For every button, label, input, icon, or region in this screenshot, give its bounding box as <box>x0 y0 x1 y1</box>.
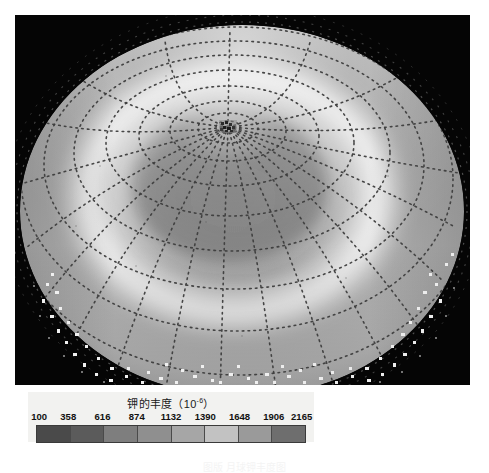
legend-tick-label-100: 100 <box>31 411 47 423</box>
legend-tick-label-1906: 1906 <box>263 411 284 423</box>
legend-tick-label-358: 358 <box>60 411 76 423</box>
legend-tick-label-616: 616 <box>95 411 111 423</box>
legend-tick-label-1390: 1390 <box>195 411 216 423</box>
legend-segment-5 <box>205 426 239 442</box>
legend-title-main: 钾的丰度（10 <box>127 398 196 410</box>
figure-root: 钾的丰度（10-6） 10035861687411321390164819062… <box>0 0 489 473</box>
legend-segment-7 <box>272 426 305 442</box>
plot-canvas <box>15 15 470 385</box>
legend-segment-6 <box>239 426 273 442</box>
legend-title: 钾的丰度（10-6） <box>28 394 314 411</box>
legend-segment-4 <box>172 426 206 442</box>
legend-segment-0 <box>37 426 71 442</box>
legend-panel: 钾的丰度（10-6） 10035861687411321390164819062… <box>28 392 314 442</box>
legend-segment-2 <box>104 426 138 442</box>
lunar-abundance-map <box>15 15 470 385</box>
legend-tick-label-874: 874 <box>129 411 145 423</box>
figure-caption: 图版 月球钾丰度图 <box>0 462 489 473</box>
legend-tick-label-1132: 1132 <box>161 411 182 423</box>
legend-tick-label-1648: 1648 <box>229 411 250 423</box>
legend-tick-row: 10035861687411321390164819062165 <box>34 411 308 424</box>
legend-color-bar <box>36 425 306 443</box>
legend-title-tail: ） <box>203 398 214 410</box>
pole-pixel-cluster <box>219 120 237 133</box>
legend-segment-3 <box>138 426 172 442</box>
legend-segment-1 <box>71 426 105 442</box>
legend-tick-label-2165: 2165 <box>291 411 312 423</box>
